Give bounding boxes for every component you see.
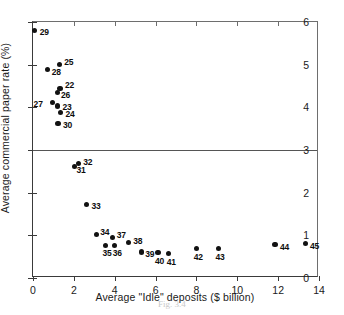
y-tick-3	[28, 150, 33, 151]
x-tick-label-2: 2	[71, 284, 77, 296]
x-tick-10	[237, 276, 238, 281]
y-tick-label-4: 4	[303, 101, 309, 113]
data-point	[112, 243, 117, 248]
data-point-label: 41	[167, 257, 176, 267]
data-point-label: 26	[61, 90, 70, 100]
data-point	[303, 241, 308, 246]
y-tick-inner-6	[33, 22, 37, 23]
data-point-label: 33	[92, 201, 101, 211]
x-tick-label-14: 14	[313, 284, 325, 296]
data-point-label: 42	[194, 252, 203, 262]
data-point-label: 22	[65, 80, 74, 90]
data-point-label: 37	[117, 230, 126, 240]
data-point-label: 29	[40, 27, 49, 37]
data-point-label: 30	[63, 120, 72, 130]
data-point	[216, 246, 221, 251]
x-tick-label-6: 6	[153, 284, 159, 296]
x-tick-label-10: 10	[231, 284, 243, 296]
x-tick-6	[156, 276, 157, 281]
data-point-label: 25	[64, 57, 73, 67]
y-tick-inner-5	[33, 65, 37, 66]
data-point-label: 39	[145, 249, 154, 259]
y-tick-inner-2	[33, 193, 37, 194]
data-point	[272, 242, 277, 247]
data-point	[139, 249, 144, 254]
gridline-y-3	[33, 150, 317, 151]
y-tick-inner-1	[33, 235, 37, 236]
data-point-label: 36	[113, 248, 122, 258]
data-point	[126, 240, 131, 245]
data-point	[84, 202, 89, 207]
data-point-label: 40	[155, 256, 164, 266]
x-tick-inner-8	[196, 22, 197, 26]
y-tick-label-0: 0	[303, 272, 309, 284]
x-tick-inner-12	[278, 22, 279, 26]
data-point-label: 24	[66, 109, 75, 119]
x-tick-inner-2	[74, 22, 75, 26]
x-tick-2	[74, 276, 75, 281]
data-point	[55, 121, 60, 126]
data-point-label: 44	[280, 242, 289, 252]
data-point	[155, 250, 160, 255]
x-tick-0	[33, 276, 34, 281]
data-point	[55, 90, 60, 95]
data-point	[45, 67, 50, 72]
x-tick-inner-6	[156, 22, 157, 26]
x-tick-4	[115, 276, 116, 281]
data-point-label: 28	[52, 67, 61, 77]
data-point-label: 43	[215, 252, 224, 262]
y-tick-label-1: 1	[303, 229, 309, 241]
figure-caption: Fig. 3.4	[0, 299, 344, 309]
data-point	[166, 251, 171, 256]
data-point-label: 27	[34, 99, 43, 109]
y-tick-label-6: 6	[303, 16, 309, 28]
x-tick-label-12: 12	[272, 284, 284, 296]
data-point	[110, 235, 115, 240]
x-tick-14	[319, 276, 320, 281]
y-tick-label-2: 2	[303, 187, 309, 199]
data-point	[58, 110, 63, 115]
x-tick-inner-4	[115, 22, 116, 26]
data-point-label: 38	[133, 236, 142, 246]
data-point-label: 31	[76, 165, 85, 175]
plot-area: 0123456 02468101214 29282522262723243032…	[32, 21, 318, 277]
data-point	[94, 232, 99, 237]
y-axis-title: Average commercial paper rate (%)	[0, 0, 12, 256]
x-tick-12	[278, 276, 279, 281]
x-tick-label-0: 0	[30, 284, 36, 296]
x-tick-inner-10	[237, 22, 238, 26]
x-tick-label-8: 8	[194, 284, 200, 296]
y-tick-label-3: 3	[303, 144, 309, 156]
data-point	[32, 28, 37, 33]
data-point	[103, 243, 108, 248]
data-point-label: 34	[100, 227, 109, 237]
y-tick-label-5: 5	[303, 59, 309, 71]
data-point-label: 45	[310, 241, 319, 251]
scatter-plot-figure: Average commercial paper rate (%) Averag…	[0, 0, 344, 315]
x-tick-label-4: 4	[112, 284, 118, 296]
data-point	[55, 103, 60, 108]
data-point	[194, 246, 199, 251]
data-point	[57, 62, 62, 67]
data-point-label: 35	[103, 248, 112, 258]
x-tick-8	[196, 276, 197, 281]
